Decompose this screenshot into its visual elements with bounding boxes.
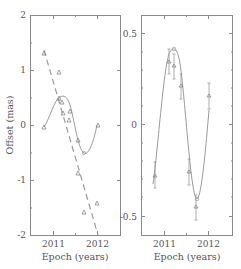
left-ytick-2: 2 [20,10,26,20]
right-x-axis-label: Epoch (years) [154,251,221,262]
left-ytick-minus1: -1 [17,175,26,185]
right-data-points [153,49,211,220]
left-x-axis-label: Epoch (years) [42,251,109,262]
left-data-points [42,51,100,214]
right-plot-frame [142,16,233,236]
left-ytick-minus2: -2 [17,230,26,240]
right-xtick-2012: 2012 [197,239,220,249]
right-ytick-0: 0 [131,120,137,130]
right-y-ticks [141,34,233,217]
left-trend-line [44,50,98,235]
right-xtick-2011: 2011 [153,239,176,249]
left-panel: 2 1 0 -1 -2 2011 2012 Epoch (years) Offs… [4,10,121,262]
left-ytick-0: 0 [20,120,26,130]
right-fit-curve [153,49,209,199]
right-ytick-0.5: 0.5 [123,29,138,39]
left-x-ticks [54,15,98,235]
left-fit-curve [44,96,97,153]
left-xtick-2012: 2012 [86,239,109,249]
left-ytick-1: 1 [20,65,26,75]
figure: 2 1 0 -1 -2 2011 2012 Epoch (years) Offs… [0,0,241,269]
right-panel: 0.5 0 -0.5 2011 2012 Epoch (years) [120,15,233,262]
left-xtick-2011: 2011 [42,239,65,249]
right-ytick-minus0.5: -0.5 [120,212,138,222]
left-y-axis-label: Offset (mas) [4,96,15,155]
